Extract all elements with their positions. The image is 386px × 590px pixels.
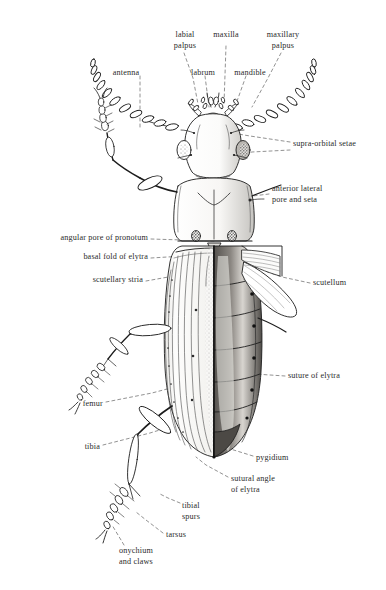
beetle-figure <box>69 58 317 543</box>
label-angular-pore-of-pronotum: angular pore of pronotum <box>61 233 149 244</box>
leader-femur <box>106 389 167 402</box>
label-sutural-angle-of-elytra: sutural angle of elytra <box>231 474 275 495</box>
foreleg-femur <box>113 160 140 178</box>
label-scutellum: scutellum <box>313 278 346 289</box>
hindleg-left <box>96 403 174 543</box>
label-femur: femur <box>83 399 103 410</box>
label-suture-of-elytra: suture of elytra <box>288 371 340 382</box>
label-supra-orbital-setae: supra-orbital setae <box>293 139 356 150</box>
elytron-left <box>164 246 214 457</box>
label-mandible: mandible <box>234 68 266 79</box>
labial-palpus-left <box>201 97 208 109</box>
foreleg-left <box>94 88 177 193</box>
head <box>177 114 250 179</box>
label-maxillary-palpus: maxillary palpus <box>267 30 300 51</box>
leader-tibial-spurs <box>160 494 180 503</box>
leader-tarsus <box>136 512 163 533</box>
leader-mandible <box>236 76 246 104</box>
label-tibia: tibia <box>85 442 100 453</box>
leader-maxillary-palpus <box>252 53 281 107</box>
leader-onychium <box>112 525 124 545</box>
claws <box>96 530 107 543</box>
leader-labrum <box>205 76 209 107</box>
label-labrum: labrum <box>191 68 215 79</box>
label-antenna: antenna <box>113 68 140 79</box>
leader-maxilla <box>224 46 226 104</box>
pronotum <box>174 178 264 242</box>
leader-sutural-angle <box>196 457 228 477</box>
anterior-lateral-pore-and-seta <box>249 199 265 202</box>
label-basal-fold-of-elytra: basal fold of elytra <box>83 252 148 263</box>
leader-labial-palpus <box>184 53 198 104</box>
sutural-angle-of-elytra <box>212 455 215 458</box>
tibial-spurs <box>129 484 140 499</box>
label-maxilla: maxilla <box>213 30 239 41</box>
label-pygidium: pygidium <box>256 453 289 464</box>
label-tarsus: tarsus <box>166 530 186 541</box>
label-anterior-lateral-pore: anterior lateral pore and seta <box>272 184 322 205</box>
label-scutellary-stria: scutellary stria <box>93 275 143 286</box>
head-capsule <box>185 114 241 178</box>
illustration-page: labial palpus maxilla maxillary palpus a… <box>0 0 386 590</box>
label-onychium-and-claws: onychium and claws <box>119 546 153 567</box>
onychium <box>103 520 111 530</box>
label-labial-palpus: labial palpus <box>174 30 196 51</box>
label-tibial-spurs: tibial spurs <box>182 501 200 522</box>
